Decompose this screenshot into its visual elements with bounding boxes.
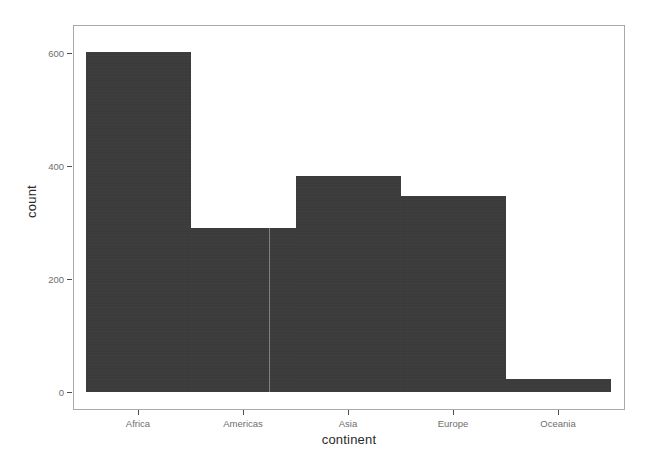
- y-tick-label-0: 0: [28, 387, 64, 398]
- bars-layer: [73, 25, 625, 410]
- y-tickmark-600: [67, 53, 72, 54]
- bar-texture: [401, 196, 506, 392]
- bar-europe: [401, 196, 506, 392]
- x-tickmark-asia: [348, 410, 349, 415]
- bar-africa: [86, 52, 191, 392]
- y-tickmark-200: [67, 279, 72, 280]
- x-tick-label-asia: Asia: [339, 418, 357, 429]
- bar-asia: [296, 176, 401, 392]
- y-tick-label-600: 600: [28, 48, 64, 59]
- x-tickmark-europe: [453, 410, 454, 415]
- x-tickmark-oceania: [558, 410, 559, 415]
- x-tickmark-americas: [243, 410, 244, 415]
- y-axis-tick-labels: 0 200 400 600: [28, 0, 64, 461]
- y-tickmark-0: [67, 392, 72, 393]
- x-tick-label-africa: Africa: [126, 418, 150, 429]
- bar-oceania: [506, 379, 611, 392]
- bar-texture: [506, 379, 611, 392]
- y-tick-label-400: 400: [28, 161, 64, 172]
- x-axis-title: continent: [73, 432, 625, 447]
- bar-seam: [269, 228, 270, 392]
- bar-chart: count 0 200 400 600 Afri: [0, 0, 656, 461]
- bar-texture: [86, 52, 191, 392]
- bar-texture: [296, 176, 401, 392]
- x-tick-label-oceania: Oceania: [540, 418, 575, 429]
- y-tickmark-400: [67, 166, 72, 167]
- x-tickmark-africa: [138, 410, 139, 415]
- x-tick-label-europe: Europe: [438, 418, 469, 429]
- bar-americas: [191, 228, 296, 392]
- y-tick-label-200: 200: [28, 274, 64, 285]
- bar-texture: [191, 228, 296, 392]
- x-tick-label-americas: Americas: [223, 418, 263, 429]
